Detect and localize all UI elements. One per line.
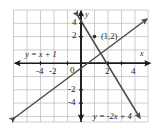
y-tick-label-neg4: -4 [68, 98, 76, 107]
y-tick-label-4: 4 [72, 18, 77, 27]
equation-label-line1: y = x + 1 [25, 50, 57, 59]
intersection-point-marker [93, 35, 97, 39]
y-axis-label: y [85, 11, 89, 19]
equation-label-line2: y = -2x + 4 [93, 112, 132, 121]
x-tick-label-2: 2 [105, 67, 110, 76]
x-tick-label-neg4: -4 [36, 67, 44, 76]
y-tick-label-neg2: -2 [68, 85, 76, 94]
coordinate-plane-svg [0, 0, 160, 129]
graph-figure: x y -4 -2 2 4 0 4 2 -2 -4 y = x + 1 y = … [0, 0, 160, 129]
intersection-point-label: (1,2) [101, 32, 117, 41]
x-axis-label: x [140, 50, 144, 58]
x-tick-label-neg2: -2 [49, 67, 57, 76]
origin-label: 0 [70, 66, 75, 75]
y-tick-label-2: 2 [72, 31, 77, 40]
x-tick-label-4: 4 [131, 67, 136, 76]
